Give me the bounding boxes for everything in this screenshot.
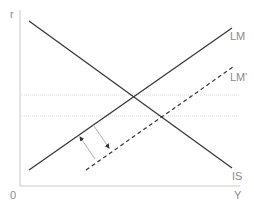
origin-label: 0: [10, 189, 16, 201]
lm-prime-label: LM': [230, 71, 247, 83]
diagram-svg: r 0 Y LM LM' IS: [0, 0, 254, 210]
shift-left-arrow: [80, 137, 95, 159]
is-lm-diagram: r 0 Y LM LM' IS: [0, 0, 254, 210]
lm-label: LM: [230, 30, 245, 42]
x-axis-label: Y: [234, 189, 242, 201]
is-curve: [29, 21, 232, 168]
lm-curve: [29, 28, 232, 170]
is-label: IS: [232, 170, 242, 182]
y-axis-label: r: [10, 8, 14, 20]
shift-right-arrow: [94, 126, 109, 148]
lm-prime-curve: [86, 67, 233, 170]
